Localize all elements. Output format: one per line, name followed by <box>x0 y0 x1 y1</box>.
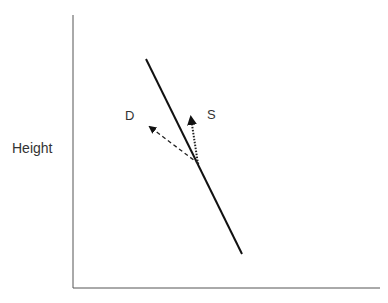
diagram-canvas <box>0 0 388 303</box>
vector-d-label: D <box>125 108 134 123</box>
vector-s-label: S <box>207 107 216 122</box>
vector-d-arrow <box>150 127 199 164</box>
y-axis-label: Height <box>12 140 52 156</box>
surface-line <box>146 59 242 254</box>
